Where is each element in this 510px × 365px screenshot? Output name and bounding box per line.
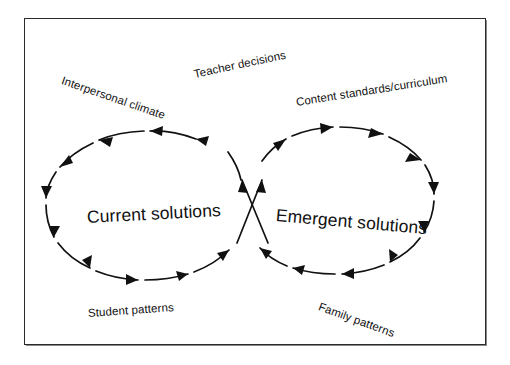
arrowhead-icon (176, 271, 188, 281)
arrowhead-icon (196, 136, 209, 146)
arrowhead-icon (342, 268, 354, 279)
arrowhead-icon (273, 139, 286, 151)
arrowhead-icon (293, 265, 305, 275)
arrowhead-icon (41, 186, 52, 198)
arrowhead-icon (320, 123, 333, 134)
arrowhead-icon (428, 182, 439, 194)
right-loop-emergent-solutions (260, 127, 434, 274)
right-loop-arrowheads (260, 123, 439, 279)
arrowhead-icon (126, 274, 138, 285)
center-crossing-arrowheads (238, 180, 266, 193)
arrowhead-icon (150, 126, 163, 136)
loop-left-segment (58, 243, 90, 268)
loop-right-segment (389, 137, 421, 160)
loop-left-segment (228, 152, 241, 180)
diagram-canvas: Interpersonal climate Teacher decisions … (0, 0, 510, 365)
loop-right-segment (390, 238, 420, 262)
